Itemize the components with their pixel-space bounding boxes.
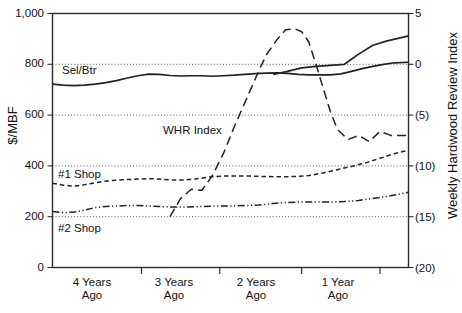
series-line-sel-btr-late [273,36,408,75]
x-tick-marks [142,268,381,275]
series-line-whr-index [170,29,409,217]
series-line--2-shop [53,192,409,212]
gridlines [53,64,409,216]
series-line--1-shop [53,150,409,186]
plot-area [0,0,462,313]
series-lines [53,29,409,217]
plot-frame [53,14,409,268]
chart-container: $/MBF Weekly Hardwood Review Index 1,000… [0,0,462,313]
series-line-sel-btr [53,62,409,85]
y-tick-marks [48,14,414,268]
